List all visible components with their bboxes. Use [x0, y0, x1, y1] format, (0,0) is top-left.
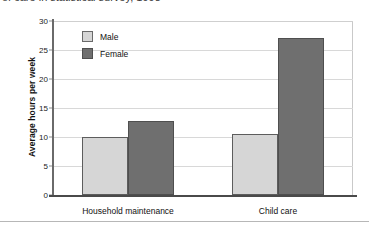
y-tick-label-30: 30	[39, 17, 48, 26]
x-category-label-0: Household maintenance	[82, 206, 174, 216]
y-tick-label-20: 20	[39, 75, 48, 84]
legend-item-male[interactable]: Male	[82, 29, 172, 44]
bottom-separator-rule	[0, 221, 369, 222]
y-axis-line	[52, 19, 54, 197]
bar-female-0[interactable]	[128, 121, 174, 195]
legend-label-male: Male	[100, 32, 118, 42]
bar-male-0[interactable]	[82, 137, 128, 195]
chart-title-strip: of care in statistical survey, 1998	[0, 0, 369, 7]
legend-item-female[interactable]: Female	[82, 46, 172, 61]
y-tick-label-0: 0	[44, 191, 48, 200]
bar-female-1[interactable]	[278, 38, 324, 195]
bar-male-1[interactable]	[232, 134, 278, 195]
x-axis-line	[49, 195, 357, 197]
x-category-label-1: Child care	[259, 206, 297, 216]
legend-swatch-male-icon	[82, 31, 93, 42]
y-tick-label-10: 10	[39, 133, 48, 142]
y-tick-label-15: 15	[39, 104, 48, 113]
bar-chart-figure: Average hours per week 051015202530 Hous…	[0, 7, 369, 235]
y-tick-label-25: 25	[39, 46, 48, 55]
legend-label-female: Female	[100, 49, 128, 59]
chart-title: of care in statistical survey, 1998	[2, 0, 161, 3]
y-tick-label-5: 5	[44, 162, 48, 171]
y-axis-title: Average hours per week	[27, 32, 37, 182]
gridline-30	[53, 21, 353, 22]
chart-legend: Male Female	[82, 29, 172, 63]
legend-swatch-female-icon	[82, 48, 93, 59]
